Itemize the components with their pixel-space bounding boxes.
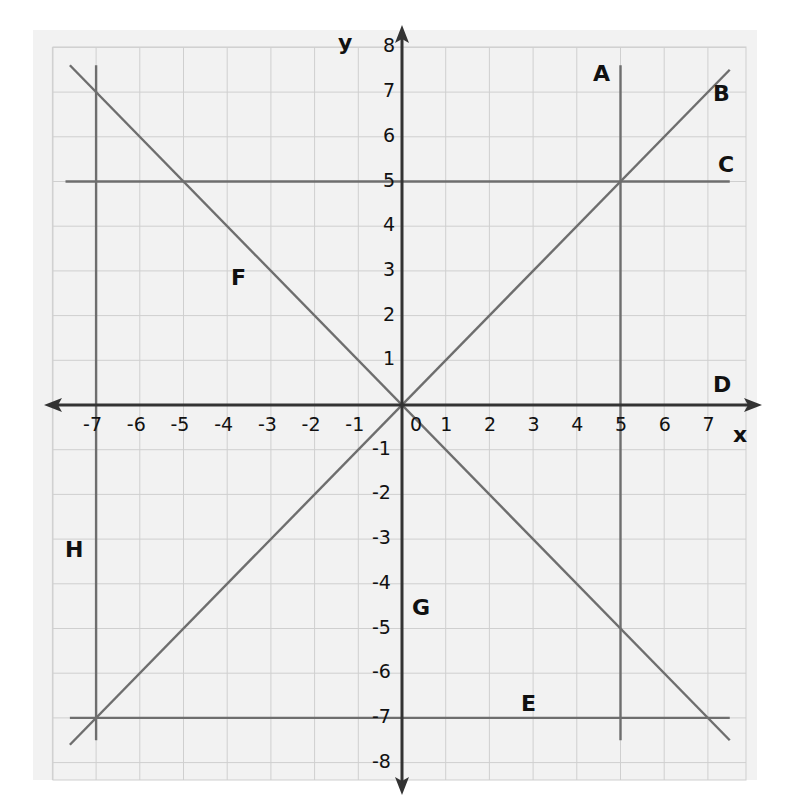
x-tick-label: 4 — [571, 415, 583, 434]
x-tick-label: 0 — [410, 415, 422, 434]
y-tick-label: 8 — [383, 36, 395, 55]
x-tick-label: -2 — [302, 415, 321, 434]
line-f — [70, 65, 730, 740]
y-tick-label: -5 — [372, 618, 391, 637]
line-b — [70, 70, 730, 745]
line-label-g: G — [412, 597, 430, 619]
y-tick-label: 4 — [383, 215, 395, 234]
y-tick-label: -8 — [372, 752, 391, 771]
y-tick-label: 1 — [383, 349, 395, 368]
y-tick-label: -6 — [372, 662, 391, 681]
x-tick-label: 6 — [659, 415, 671, 434]
x-tick-label: 7 — [702, 415, 714, 434]
y-tick-label: -3 — [372, 528, 391, 547]
line-label-h: H — [65, 539, 83, 561]
x-tick-label: 3 — [528, 415, 540, 434]
line-label-c: C — [718, 154, 734, 176]
y-axis-label: y — [338, 32, 352, 54]
x-tick-label: 2 — [484, 415, 496, 434]
y-tick-label: 3 — [383, 260, 395, 279]
axes — [44, 25, 762, 795]
y-tick-label: 7 — [383, 81, 395, 100]
grid-border — [53, 47, 746, 780]
x-tick-label: -3 — [258, 415, 277, 434]
y-tick-label: 2 — [383, 305, 395, 324]
y-tick-label: -7 — [372, 707, 391, 726]
x-tick-label: 1 — [440, 415, 452, 434]
y-tick-label: 5 — [383, 171, 395, 190]
x-tick-label: -7 — [83, 415, 102, 434]
line-label-f: F — [231, 267, 246, 289]
y-tick-label: -2 — [372, 483, 391, 502]
coordinate-plane — [0, 0, 786, 801]
x-axis-label: x — [733, 424, 747, 446]
x-tick-label: -6 — [127, 415, 146, 434]
x-tick-label: -5 — [171, 415, 190, 434]
x-tick-label: -1 — [345, 415, 364, 434]
y-tick-label: 6 — [383, 126, 395, 145]
line-label-e: E — [521, 693, 536, 715]
x-tick-label: -4 — [214, 415, 233, 434]
line-label-d: D — [713, 374, 731, 396]
y-tick-label: -4 — [372, 573, 391, 592]
x-tick-label: 5 — [615, 415, 627, 434]
grid-lines — [52, 47, 746, 780]
line-label-a: A — [593, 63, 610, 85]
y-tick-label: -1 — [372, 439, 391, 458]
line-label-b: B — [713, 83, 730, 105]
